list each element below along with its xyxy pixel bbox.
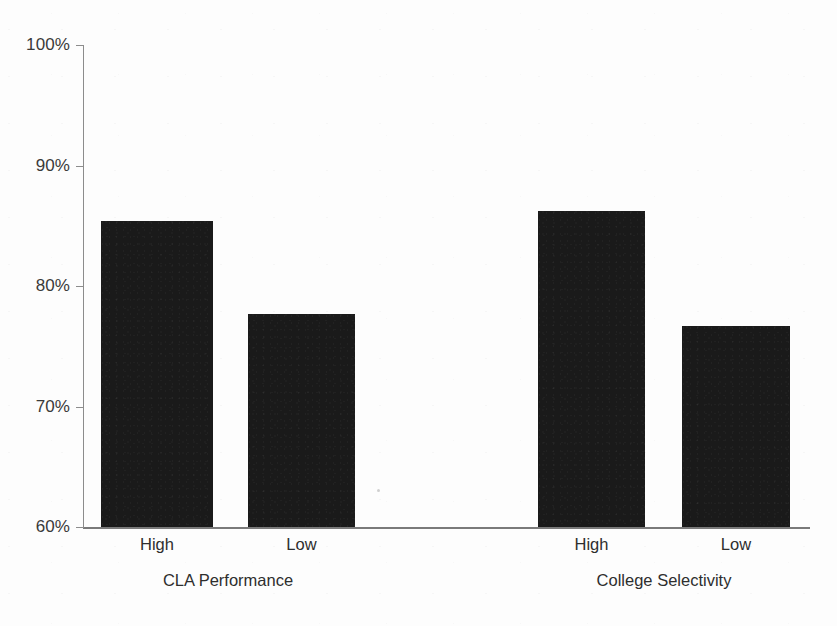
bar[interactable]	[682, 326, 790, 527]
bar[interactable]	[538, 211, 645, 527]
y-axis-tick-label: 100%	[2, 36, 70, 53]
x-axis-line	[83, 527, 810, 529]
y-axis-tick-label: 70%	[2, 398, 70, 415]
bar[interactable]	[248, 314, 355, 527]
bar-chart: 100%90%80%70%60% HighLowHighLow CLA Perf…	[0, 0, 837, 626]
y-axis-tick-mark	[76, 166, 84, 167]
category-label: High	[532, 534, 652, 554]
y-axis-tick-mark	[76, 45, 84, 46]
y-axis-tick-mark	[76, 407, 84, 408]
y-axis-tick-mark	[76, 527, 84, 528]
category-label: Low	[676, 534, 796, 554]
group-label: CLA Performance	[88, 570, 368, 590]
bar[interactable]	[101, 221, 213, 527]
y-axis-tick-mark	[76, 286, 84, 287]
category-label: Low	[242, 534, 362, 554]
y-axis-tick-label: 80%	[2, 277, 70, 294]
scan-speck	[377, 489, 380, 492]
category-label: High	[97, 534, 217, 554]
y-axis-tick-label: 60%	[2, 518, 70, 535]
group-label: College Selectivity	[524, 570, 804, 590]
y-axis-tick-label: 90%	[2, 157, 70, 174]
